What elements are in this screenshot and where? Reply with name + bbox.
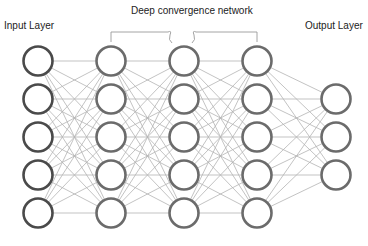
edge: [197, 182, 243, 206]
edge: [197, 144, 243, 168]
edge: [51, 144, 97, 168]
edge: [51, 182, 97, 206]
input-node: [24, 47, 53, 76]
hidden-3-node: [243, 199, 272, 228]
edge: [197, 68, 243, 92]
edge: [124, 182, 170, 206]
edge: [197, 68, 243, 92]
edge: [51, 182, 97, 206]
hidden-1-node: [97, 47, 126, 76]
hidden-2-node: [170, 161, 199, 190]
network-diagram: [0, 0, 368, 246]
output-node: [322, 123, 351, 152]
bracket-line: [192, 31, 257, 43]
edge: [51, 106, 97, 130]
hidden-2-node: [170, 47, 199, 76]
edge: [124, 182, 170, 206]
input-node: [24, 161, 53, 190]
edge: [51, 68, 97, 92]
hidden-3-node: [243, 85, 272, 114]
hidden-1-node: [97, 85, 126, 114]
input-node: [24, 199, 53, 228]
output-node: [322, 161, 351, 190]
hidden-2-node: [170, 123, 199, 152]
edge: [265, 112, 327, 201]
edge: [270, 182, 322, 207]
output-node: [322, 85, 351, 114]
edge: [124, 144, 170, 168]
edge: [197, 182, 243, 206]
edge: [192, 74, 249, 163]
hidden-1-node: [97, 161, 126, 190]
edge: [192, 112, 249, 201]
edge: [124, 68, 170, 92]
edge: [197, 106, 243, 130]
hidden-1-node: [97, 123, 126, 152]
edge: [46, 74, 103, 163]
hidden-3-node: [243, 161, 272, 190]
edge: [124, 68, 170, 92]
hidden-2-node: [170, 85, 199, 114]
bracket-line: [111, 31, 172, 43]
input-node: [24, 123, 53, 152]
edge: [46, 112, 103, 201]
edge: [119, 112, 176, 201]
input-node: [24, 85, 53, 114]
edge: [119, 74, 176, 163]
hidden-1-node: [97, 199, 126, 228]
edge: [51, 68, 97, 92]
hidden-3-node: [243, 123, 272, 152]
hidden-layers-bracket: [111, 31, 257, 43]
hidden-2-node: [170, 199, 199, 228]
edge: [124, 106, 170, 130]
hidden-3-node: [243, 47, 272, 76]
edge: [270, 67, 322, 92]
